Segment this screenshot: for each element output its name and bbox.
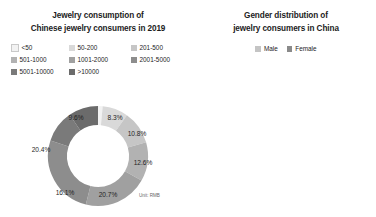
left-chart-legend: <50 50-200 201-500 501-1000 1001-2000 20… <box>11 44 187 76</box>
legend-swatch-icon <box>131 57 137 63</box>
donut-label-50-200: 8.3% <box>107 114 122 122</box>
donut-label-201-500: 10.8% <box>128 130 147 138</box>
legend-swatch-icon <box>11 57 17 63</box>
legend-swatch-icon <box>69 69 75 75</box>
legend-item-2001-5000[interactable]: 2001-5000 <box>131 56 187 64</box>
donut-label-5001-10000: 20.4% <box>32 146 51 154</box>
legend-label: Female <box>295 45 316 53</box>
legend-swatch-icon <box>11 44 19 52</box>
chart-page: Jewelry consumption of Chinese jewelry c… <box>0 0 376 217</box>
legend-swatch-icon <box>255 46 261 52</box>
legend-item-male[interactable]: Male <box>255 45 277 53</box>
jewelry-consumption-panel: Jewelry consumption of Chinese jewelry c… <box>0 0 196 217</box>
legend-item-201-500[interactable]: 201-500 <box>131 44 187 52</box>
legend-item-5001-10000[interactable]: 5001-10000 <box>11 68 69 76</box>
legend-item-gt10000[interactable]: >10000 <box>69 68 131 76</box>
legend-label: <50 <box>22 44 33 52</box>
left-chart-title: Jewelry consumption of Chinese jewelry c… <box>0 0 196 35</box>
donut-label-501-1000: 12.6% <box>134 159 153 167</box>
right-chart-title-line2: jewelry consumers in China <box>196 22 376 35</box>
right-chart-title-line1: Gender distribution of <box>196 9 376 22</box>
right-chart-legend: Male Female <box>196 45 376 53</box>
donut-label-1001-2000: 20.7% <box>99 191 118 199</box>
legend-item-501-1000[interactable]: 501-1000 <box>11 56 69 64</box>
left-chart-title-line2: Chinese jewelry consumers in 2019 <box>0 22 196 35</box>
legend-label: 5001-10000 <box>20 68 54 76</box>
donut-segment-2001-5000[interactable] <box>57 143 88 195</box>
donut-label-gt10000: 9.6% <box>68 114 83 122</box>
legend-swatch-icon <box>131 45 137 51</box>
left-chart-title-line1: Jewelry consumption of <box>0 9 196 22</box>
unit-note: Unit: RMB <box>139 193 160 199</box>
donut-label-2001-5000: 16.1% <box>56 189 75 197</box>
legend-swatch-icon <box>69 45 75 51</box>
right-chart-title: Gender distribution of jewelry consumers… <box>196 0 376 35</box>
legend-label: 201-500 <box>140 44 163 52</box>
legend-label: 1001-2000 <box>78 56 109 64</box>
legend-item-female[interactable]: Female <box>287 45 317 53</box>
legend-label: Male <box>264 45 278 53</box>
donut-segment-5001-10000[interactable] <box>59 123 75 144</box>
legend-item-50-200[interactable]: 50-200 <box>69 44 131 52</box>
legend-label: >10000 <box>78 68 100 76</box>
legend-item-1001-2000[interactable]: 1001-2000 <box>69 56 131 64</box>
legend-swatch-icon <box>287 46 293 52</box>
legend-label: 50-200 <box>78 44 98 52</box>
gender-distribution-panel: Gender distribution of jewelry consumers… <box>196 0 376 217</box>
legend-swatch-icon <box>11 69 17 75</box>
legend-label: 501-1000 <box>20 56 47 64</box>
legend-item-lt50[interactable]: <50 <box>11 44 69 52</box>
legend-swatch-icon <box>69 57 75 63</box>
legend-label: 2001-5000 <box>140 56 171 64</box>
